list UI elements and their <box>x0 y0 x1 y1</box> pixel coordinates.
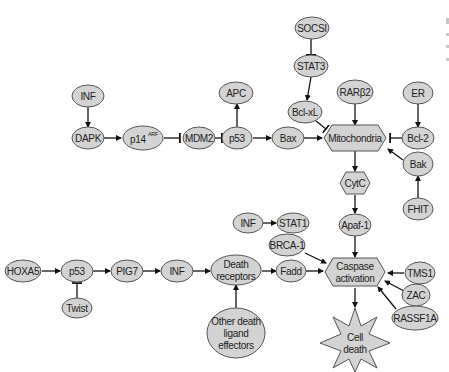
svg-text:activation: activation <box>335 273 374 284</box>
node-bcl2: Bcl-2 <box>402 127 434 149</box>
svg-text:ligand: ligand <box>224 328 249 339</box>
node-mitochondria: Mitochondria <box>324 125 386 151</box>
svg-text:Bcl-2: Bcl-2 <box>407 133 429 144</box>
node-dapk: DAPK <box>72 127 104 149</box>
node-rarb2: RARβ2 <box>337 80 373 104</box>
svg-text:TMS1: TMS1 <box>407 268 433 279</box>
node-fadd: Fadd <box>276 260 306 282</box>
svg-text:ER: ER <box>411 88 424 99</box>
node-hoxa5: HOXA5 <box>5 260 41 282</box>
node-bclxl: Bcl-xL <box>288 101 322 123</box>
svg-text:Cell: Cell <box>347 332 363 343</box>
node-p53-top: p53 <box>222 127 252 149</box>
node-stat3: STAT3 <box>294 55 328 77</box>
svg-text:Mitochondria: Mitochondria <box>328 133 382 144</box>
svg-text:Apaf-1: Apaf-1 <box>341 220 369 231</box>
edge-bclxl-mito <box>316 121 326 129</box>
svg-text:Caspase: Caspase <box>336 261 374 272</box>
svg-text:CytC: CytC <box>344 178 365 189</box>
node-apaf1: Apaf-1 <box>339 214 371 236</box>
node-er: ER <box>403 82 433 104</box>
svg-text:Bak: Bak <box>410 159 428 170</box>
edge-rassf1a-caspase <box>378 287 396 309</box>
svg-text:DAPK: DAPK <box>75 133 102 144</box>
edge-zac-caspase <box>385 281 404 291</box>
node-other-death-ligand-effectors: Other death ligand effectors <box>207 308 265 358</box>
svg-text:INF: INF <box>169 266 184 277</box>
node-mdm2: MDM2 <box>183 127 215 149</box>
svg-text:p14: p14 <box>130 134 147 145</box>
svg-text:HOXA5: HOXA5 <box>7 266 40 277</box>
node-caspase-activation: Caspase activation <box>325 258 385 286</box>
svg-text:Death: Death <box>223 259 248 270</box>
svg-text:Twist: Twist <box>66 303 88 314</box>
edge-bak-mito <box>388 149 403 160</box>
svg-text:BRCA-1: BRCA-1 <box>270 240 306 251</box>
svg-text:APC: APC <box>226 88 246 99</box>
node-rassf1a: RASSF1A <box>392 306 438 330</box>
node-death-receptors: Death receptors <box>211 255 261 285</box>
svg-text:STAT1: STAT1 <box>279 218 308 229</box>
node-fhit: FHIT <box>403 198 433 220</box>
svg-text:Bax: Bax <box>280 133 297 144</box>
node-socsi: SOCSI <box>295 17 329 39</box>
svg-text:effectors: effectors <box>218 340 254 351</box>
node-bax: Bax <box>272 127 304 149</box>
svg-text:PIG7: PIG7 <box>116 266 138 277</box>
svg-text:MDM2: MDM2 <box>185 133 214 144</box>
node-brca1: BRCA-1 <box>269 234 305 256</box>
svg-text:RARβ2: RARβ2 <box>340 87 372 98</box>
svg-text:p53: p53 <box>69 266 86 277</box>
svg-text:death: death <box>343 344 367 355</box>
svg-text:STAT3: STAT3 <box>297 61 326 72</box>
node-cytc: CytC <box>340 172 370 194</box>
node-inf-bottom: INF <box>161 260 193 282</box>
svg-text:receptors: receptors <box>217 271 256 282</box>
svg-text:ZAC: ZAC <box>406 290 425 301</box>
node-inf-top: INF <box>72 85 104 107</box>
svg-text:p53: p53 <box>229 133 246 144</box>
node-p14arf: p14 ARF <box>123 126 163 150</box>
pathway-diagram: SOCSI STAT3 APC Bcl-xL RARβ2 ER INF DAPK… <box>0 0 449 372</box>
node-bak: Bak <box>403 152 433 176</box>
node-stat1: STAT1 <box>277 213 309 233</box>
node-inf-mid: INF <box>233 213 263 233</box>
node-p53-bottom: p53 <box>61 260 93 282</box>
node-tms1: TMS1 <box>405 262 435 284</box>
edge-brca1-caspase <box>305 253 326 263</box>
svg-text:Fadd: Fadd <box>280 266 302 277</box>
svg-text:Bcl-xL: Bcl-xL <box>292 107 319 118</box>
node-twist: Twist <box>62 298 92 318</box>
svg-text:SOCSI: SOCSI <box>297 23 327 34</box>
svg-text:INF: INF <box>80 91 95 102</box>
svg-text:FHIT: FHIT <box>407 204 428 215</box>
svg-text:Other death: Other death <box>211 316 261 327</box>
svg-text:ARF: ARF <box>148 131 159 137</box>
svg-text:INF: INF <box>240 218 255 229</box>
svg-text:RASSF1A: RASSF1A <box>393 313 437 324</box>
node-apc: APC <box>219 82 253 104</box>
node-zac: ZAC <box>402 284 430 306</box>
edge-stat3-bclxl <box>307 77 311 100</box>
node-pig7: PIG7 <box>111 260 143 282</box>
node-cell-death: Cell death <box>320 308 390 372</box>
